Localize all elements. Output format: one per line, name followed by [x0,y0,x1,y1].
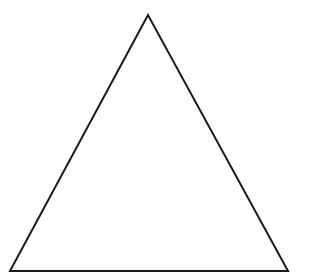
diagram-canvas [0,0,309,278]
triangle-shape [10,15,288,271]
triangle-figure [0,0,309,278]
